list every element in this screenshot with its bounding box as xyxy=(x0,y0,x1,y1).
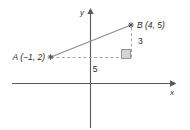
horizontal-leg-length-label: 5 xyxy=(93,64,98,74)
x-axis: x xyxy=(12,80,177,97)
point-a-label: A (−1, 2) xyxy=(11,52,45,62)
coordinate-geometry-diagram: x y A (−1, 2) xyxy=(0,0,190,130)
y-axis-label: y xyxy=(79,8,85,17)
x-axis-arrow-icon xyxy=(170,80,177,86)
point-b-label: B (4, 5) xyxy=(137,20,165,30)
x-axis-label: x xyxy=(169,88,175,97)
point-a-marker-icon xyxy=(48,54,54,60)
y-axis-arrow-icon xyxy=(87,8,93,14)
right-angle-marker-icon xyxy=(122,50,131,59)
y-axis: y xyxy=(79,8,94,128)
point-b-marker-icon xyxy=(128,22,134,28)
vertical-leg-length-label: 3 xyxy=(138,36,143,46)
geometry-figure: x y A (−1, 2) xyxy=(0,0,190,130)
